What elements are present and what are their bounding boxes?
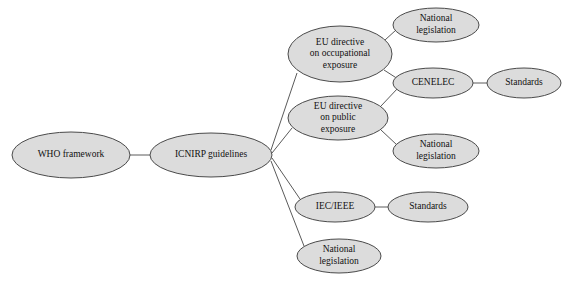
node-ellipse-iec-ieee[interactable] bbox=[295, 192, 375, 222]
edge-connector bbox=[272, 128, 292, 153]
edge-connector bbox=[381, 130, 397, 145]
node-ellipse-national-bottom[interactable] bbox=[297, 239, 381, 273]
node-ellipse-eu-public[interactable] bbox=[288, 96, 388, 140]
node-cenelec[interactable]: CENELEC bbox=[393, 68, 473, 98]
node-ellipse-who[interactable] bbox=[12, 132, 130, 178]
node-ellipse-icnirp[interactable] bbox=[150, 133, 272, 177]
diagram-svg: WHO frameworkICNIRP guidelinesEU directi… bbox=[0, 0, 576, 283]
node-national-top[interactable]: Nationallegislation bbox=[393, 8, 479, 42]
diagram-canvas: WHO frameworkICNIRP guidelinesEU directi… bbox=[0, 0, 576, 283]
node-eu-occupational[interactable]: EU directiveon occupationalexposure bbox=[288, 26, 392, 82]
node-ellipse-standards-top[interactable] bbox=[487, 68, 561, 98]
node-icnirp[interactable]: ICNIRP guidelines bbox=[150, 133, 272, 177]
node-standards-bottom[interactable]: Standards bbox=[388, 192, 468, 222]
node-national-bottom[interactable]: Nationallegislation bbox=[297, 239, 381, 273]
edge-connector bbox=[381, 88, 398, 106]
node-iec-ieee[interactable]: IEC/IEEE bbox=[295, 192, 375, 222]
node-ellipse-eu-occupational[interactable] bbox=[288, 26, 392, 82]
node-ellipse-national-middle[interactable] bbox=[393, 134, 479, 168]
node-standards-top[interactable]: Standards bbox=[487, 68, 561, 98]
nodes-layer: WHO frameworkICNIRP guidelinesEU directi… bbox=[12, 8, 561, 273]
edge-connector bbox=[385, 30, 396, 40]
node-who[interactable]: WHO framework bbox=[12, 132, 130, 178]
node-eu-public[interactable]: EU directiveon publicexposure bbox=[288, 96, 388, 140]
node-ellipse-cenelec[interactable] bbox=[393, 68, 473, 98]
node-ellipse-standards-bottom[interactable] bbox=[388, 192, 468, 222]
edge-connector bbox=[272, 158, 300, 199]
node-national-middle[interactable]: Nationallegislation bbox=[393, 134, 479, 168]
node-ellipse-national-top[interactable] bbox=[393, 8, 479, 42]
